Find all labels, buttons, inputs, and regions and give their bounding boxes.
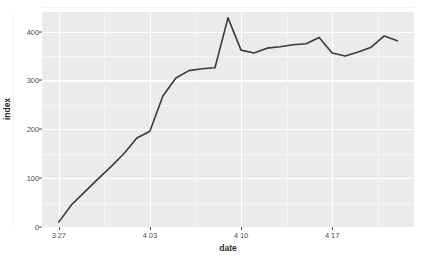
x-tick-mark-2 — [241, 227, 242, 230]
x-axis-tick-labels: 3 274 034 104 17 — [42, 227, 414, 243]
y-axis-title: index — [2, 89, 12, 129]
series-polyline — [59, 18, 398, 222]
y-tick-label-200: 200 — [27, 125, 39, 134]
gridline-minor-y-top — [42, 7, 414, 8]
x-tick-label-3: 4 17 — [325, 231, 339, 240]
x-tick-label-1: 4 03 — [143, 231, 157, 240]
x-tick-label-2: 4 10 — [234, 231, 248, 240]
x-tick-mark-1 — [150, 227, 151, 230]
y-tick-label-400: 400 — [27, 27, 39, 36]
x-tick-label-0: 3 27 — [52, 231, 66, 240]
y-tick-label-100: 100 — [27, 174, 39, 183]
x-tick-mark-0 — [59, 227, 60, 230]
x-tick-mark-3 — [332, 227, 333, 230]
plot-panel — [42, 12, 414, 227]
line-chart: 0100200300400 3 274 034 104 17 date inde… — [0, 0, 429, 265]
gridline-minor-x-pre — [13, 12, 14, 227]
x-axis-title: date — [42, 243, 414, 253]
y-tick-label-300: 300 — [27, 76, 39, 85]
series-line-index — [42, 12, 414, 227]
